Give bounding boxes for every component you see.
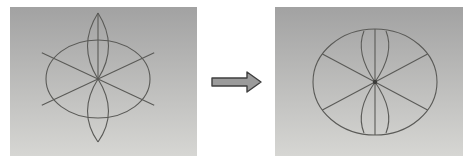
top-petal-left-arc	[88, 13, 99, 79]
before-diagram	[10, 7, 197, 156]
after-diagram	[275, 7, 463, 156]
bottom-petal-right-arc	[98, 79, 109, 142]
center-dot	[373, 80, 377, 84]
right-arrow-icon	[212, 72, 261, 92]
after-panel	[275, 7, 463, 156]
bottom-petal-right-arc-clipped	[375, 82, 389, 133]
top-petal-right-arc	[98, 13, 109, 79]
transform-arrow	[211, 70, 263, 94]
top-petal-left-arc-clipped	[361, 31, 375, 82]
bottom-petal-left-arc	[88, 79, 99, 142]
before-panel	[10, 7, 197, 156]
clipping-figure	[0, 0, 471, 160]
top-petal-right-arc-clipped	[375, 31, 389, 82]
bottom-petal-left-arc-clipped	[361, 82, 375, 133]
